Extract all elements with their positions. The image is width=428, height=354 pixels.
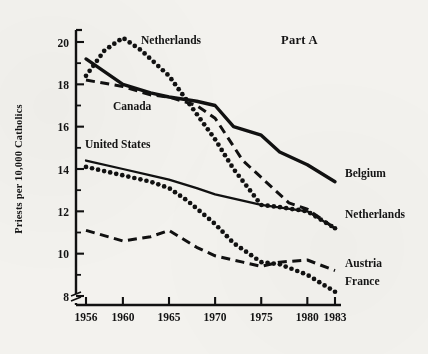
series-belgium (86, 59, 335, 182)
svg-text:10: 10 (58, 248, 70, 260)
svg-text:14: 14 (58, 164, 70, 176)
series-netherlands (84, 37, 338, 231)
svg-text:1983: 1983 (324, 311, 347, 323)
chart-figure: 8101214161820195619601965197019751980198… (0, 0, 428, 354)
svg-text:20: 20 (58, 37, 70, 49)
svg-text:1980: 1980 (296, 311, 319, 323)
series-label-netherlands: Netherlands (345, 208, 406, 220)
svg-text:1965: 1965 (158, 311, 181, 323)
svg-text:18: 18 (58, 79, 70, 91)
series-label-netherlands: Netherlands (141, 34, 202, 46)
chart-title: Part A (281, 33, 318, 47)
chart-series (84, 37, 338, 295)
svg-text:8: 8 (63, 291, 69, 303)
svg-text:1975: 1975 (250, 311, 273, 323)
series-label-united-states: United States (85, 138, 151, 150)
svg-text:Priests per 10,000 Catholics: Priests per 10,000 Catholics (13, 104, 24, 234)
series-label-france: France (345, 275, 379, 287)
series-label-canada: Canada (113, 100, 152, 112)
svg-text:16: 16 (58, 121, 70, 133)
svg-text:1970: 1970 (204, 311, 227, 323)
series-austria (86, 230, 335, 270)
series-label-austria: Austria (345, 257, 382, 269)
series-france (84, 165, 338, 295)
svg-text:1960: 1960 (111, 311, 134, 323)
priests-per-catholics-line-chart: 8101214161820195619601965197019751980198… (0, 0, 428, 354)
svg-text:12: 12 (58, 206, 70, 218)
svg-text:1956: 1956 (75, 311, 98, 323)
chart-axes: 8101214161820195619601965197019751980198… (13, 30, 347, 323)
chart-annotations: NetherlandsCanadaUnited StatesPart ABelg… (85, 33, 406, 287)
series-label-belgium: Belgium (345, 167, 386, 180)
